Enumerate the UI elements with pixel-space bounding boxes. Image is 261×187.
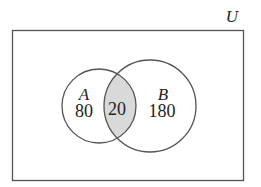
universe-label: U: [226, 7, 240, 26]
set-a-only-count: 80: [75, 101, 93, 121]
venn-diagram: U A 80 20 B 180: [0, 0, 261, 187]
intersection-count: 20: [108, 99, 126, 119]
set-b-only-count: 180: [149, 101, 176, 121]
